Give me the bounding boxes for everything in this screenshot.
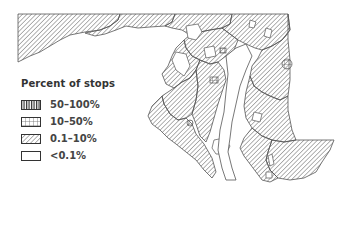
legend-label: 10–50% — [50, 116, 93, 127]
vertical-lines-swatch-icon — [21, 100, 41, 110]
empty-swatch-icon — [21, 151, 41, 161]
legend-item-0-1-10: 0.1–10% — [21, 130, 115, 147]
diagonal-lines-swatch-icon — [21, 134, 41, 144]
legend-item-10-50: 10–50% — [21, 113, 115, 130]
legend-item-50-100: 50–100% — [21, 96, 115, 113]
legend-label: 0.1–10% — [50, 133, 97, 144]
grid-swatch-icon — [21, 117, 41, 127]
legend-title: Percent of stops — [21, 78, 115, 89]
map-legend: Percent of stops 50–100% 10–50% 0.1–10% … — [21, 78, 115, 164]
legend-label: <0.1% — [50, 150, 86, 161]
legend-item-under-0-1: <0.1% — [21, 147, 115, 164]
legend-label: 50–100% — [50, 99, 100, 110]
